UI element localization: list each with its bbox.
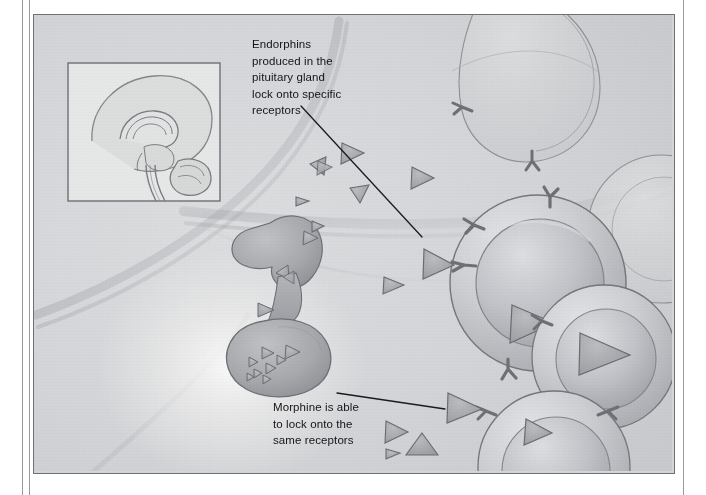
caption-line: Morphine is able: [273, 399, 408, 416]
caption-line: receptors: [252, 102, 387, 119]
caption-line: to lock onto the: [273, 416, 408, 433]
cell-membrane: [459, 15, 600, 162]
page-gutter-rule-right: [683, 0, 684, 495]
caption-line: lock onto specific: [252, 86, 387, 103]
caption-line: produced in the: [252, 53, 387, 70]
caption-line: Endorphins: [252, 36, 387, 53]
illustration-canvas: Endorphins produced in the pituitary gla…: [34, 15, 674, 473]
page-canvas: Endorphins produced in the pituitary gla…: [0, 0, 706, 495]
brain-inset-figure: [68, 63, 220, 201]
caption-endorphins: Endorphins produced in the pituitary gla…: [252, 36, 387, 119]
caption-line: pituitary gland: [252, 69, 387, 86]
caption-morphine: Morphine is able to lock onto the same r…: [273, 399, 408, 449]
page-gutter-rule-left: [22, 0, 23, 495]
page-gutter-rule-inner: [29, 0, 30, 495]
caption-line: same receptors: [273, 432, 408, 449]
illustration-plate: Endorphins produced in the pituitary gla…: [33, 14, 675, 474]
